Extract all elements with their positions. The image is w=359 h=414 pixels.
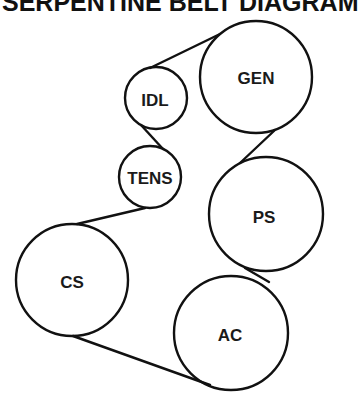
- belt-segment-idl-gen: [150, 34, 220, 68]
- pulley-label-gen: GEN: [238, 69, 275, 88]
- pulley-label-cs: CS: [60, 273, 84, 292]
- pulley-label-idl: IDL: [141, 91, 168, 110]
- pulley-label-ps: PS: [253, 208, 276, 227]
- pulley-label-tens: TENS: [127, 169, 172, 188]
- pulley-label-ac: AC: [218, 326, 243, 345]
- belt-segment-tens-cs: [77, 208, 145, 224]
- belt-segment-cs-ac: [73, 336, 210, 385]
